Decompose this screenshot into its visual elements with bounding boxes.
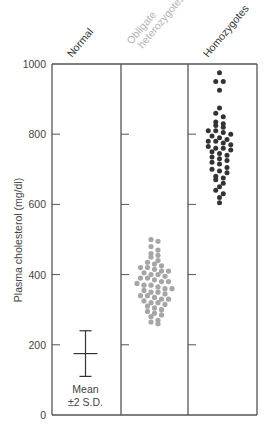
data-point [225, 165, 230, 170]
data-point [152, 261, 157, 266]
data-point [217, 200, 222, 205]
data-point [148, 283, 153, 288]
data-point [217, 135, 222, 140]
data-point [155, 300, 160, 305]
data-point [162, 286, 167, 291]
cholesterol-chart: 02004006008001000 NormalObligateheterozy… [0, 0, 266, 426]
data-point [159, 307, 164, 312]
errorbar-annotation: ±2 S.D. [68, 396, 103, 408]
svg-text:Normal: Normal [64, 26, 95, 60]
category-label-obligate-heterozygotes: Obligateheterozygotes [124, 0, 187, 53]
data-point [155, 253, 160, 258]
data-point [162, 274, 167, 279]
data-point [145, 265, 150, 270]
data-point [221, 79, 226, 84]
data-point [155, 272, 160, 277]
data-point [155, 321, 160, 326]
data-point [134, 281, 139, 286]
data-point [210, 149, 215, 154]
data-point [152, 305, 157, 310]
data-point [225, 137, 230, 142]
data-point [141, 283, 146, 288]
data-point [221, 140, 226, 145]
data-point [228, 142, 233, 147]
data-point [217, 70, 222, 75]
data-point [213, 128, 218, 133]
data-point [217, 195, 222, 200]
category-label-homozygotes: Homozygotes [200, 2, 250, 59]
y-tick-label: 600 [28, 198, 46, 210]
data-point [155, 290, 160, 295]
data-point [141, 270, 146, 275]
data-point [138, 293, 143, 298]
data-point [225, 170, 230, 175]
data-point [225, 153, 230, 158]
errorbar-annotation: Mean [72, 383, 98, 395]
y-axis-ticks [52, 134, 196, 345]
data-point [152, 277, 157, 282]
data-point [166, 268, 171, 273]
data-point [228, 147, 233, 152]
data-point [166, 279, 171, 284]
data-point [210, 155, 215, 160]
data-point [145, 304, 150, 309]
data-point [225, 158, 230, 163]
data-point [217, 151, 222, 156]
data-point [217, 169, 222, 174]
y-tick-label: 0 [40, 409, 46, 421]
data-point [169, 286, 174, 291]
data-point [166, 297, 171, 302]
data-point [221, 114, 226, 119]
data-point [155, 247, 160, 252]
data-point [148, 254, 153, 259]
data-point [159, 263, 164, 268]
category-label-normal: Normal [64, 26, 95, 60]
data-point [145, 293, 150, 298]
data-point [217, 88, 222, 93]
data-point [213, 139, 218, 144]
y-tick-label: 200 [28, 339, 46, 351]
y-axis-tick-labels: 02004006008001000 [23, 58, 47, 421]
data-point [228, 132, 233, 137]
series-obligate-heterozygotes [134, 237, 174, 326]
data-point [162, 302, 167, 307]
data-point [213, 79, 218, 84]
data-point [206, 144, 211, 149]
data-point [141, 298, 146, 303]
data-point [159, 312, 164, 317]
data-point [206, 128, 211, 133]
data-point [148, 314, 153, 319]
series-normal: Mean±2 S.D. [68, 331, 103, 408]
data-point [145, 276, 150, 281]
category-labels: NormalObligateheterozygotesHomozygotes [64, 0, 250, 59]
data-point [213, 146, 218, 151]
data-point [210, 160, 215, 165]
data-point [221, 191, 226, 196]
data-point [162, 291, 167, 296]
data-point [213, 123, 218, 128]
data-point [148, 237, 153, 242]
data-point [210, 133, 215, 138]
series-homozygotes [206, 70, 234, 205]
data-point [217, 184, 222, 189]
data-point [138, 276, 143, 281]
plot-frame [52, 64, 257, 415]
y-tick-label: 400 [28, 269, 46, 281]
y-tick-label: 800 [28, 128, 46, 140]
data-point [145, 260, 150, 265]
data-point [138, 265, 143, 270]
y-axis-label: Plasma cholesterol (mg/dl) [12, 178, 24, 302]
data-point [152, 295, 157, 300]
data-point [221, 130, 226, 135]
data-point [213, 177, 218, 182]
data-point [217, 156, 222, 161]
data-point [221, 146, 226, 151]
data-point [155, 284, 160, 289]
data-point [210, 167, 215, 172]
data-point [148, 244, 153, 249]
data-point [152, 267, 157, 272]
svg-text:Homozygotes: Homozygotes [200, 2, 250, 59]
data-point [155, 239, 160, 244]
data-point [217, 162, 222, 167]
data-point [221, 176, 226, 181]
